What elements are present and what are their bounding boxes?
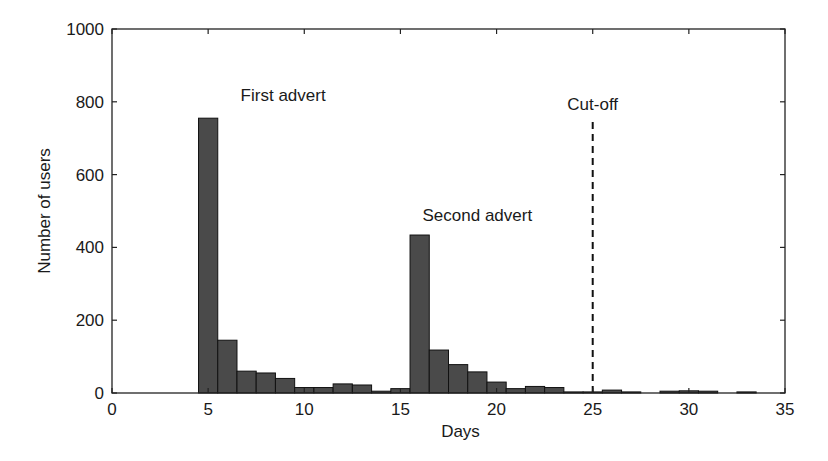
x-axis-label: Days (441, 422, 480, 441)
x-tick-label: 35 (776, 400, 795, 419)
x-tick-label: 0 (107, 400, 116, 419)
x-tick-label: 5 (203, 400, 212, 419)
histogram-bar (468, 372, 487, 393)
chart-annotation: Cut-off (567, 95, 618, 114)
x-tick-label: 10 (295, 400, 314, 419)
chart-annotation: Second advert (423, 206, 533, 225)
x-tick-label: 20 (487, 400, 506, 419)
chart-annotation: First advert (241, 86, 326, 105)
histogram-bar (506, 389, 525, 393)
histogram-bar (333, 384, 352, 393)
histogram-bar (449, 365, 468, 393)
histogram-chart: 05101520253035 02004006008001000 First a… (0, 0, 828, 461)
histogram-bar (545, 388, 564, 393)
annotations-group: First advertSecond advertCut-off (241, 86, 619, 224)
histogram-bar (314, 388, 333, 393)
histogram-bar (352, 385, 371, 393)
y-tick-label: 200 (76, 311, 104, 330)
y-tick-label: 800 (76, 93, 104, 112)
x-tick-label: 25 (583, 400, 602, 419)
bars-group (199, 118, 757, 393)
x-tick-label: 30 (679, 400, 698, 419)
y-axis-label: Number of users (35, 148, 54, 274)
histogram-bar (429, 350, 448, 393)
x-tick-label: 15 (391, 400, 410, 419)
histogram-bar (237, 371, 256, 393)
y-tick-label: 600 (76, 166, 104, 185)
histogram-bar (256, 373, 275, 393)
histogram-bar (218, 340, 237, 393)
histogram-bar (525, 386, 544, 393)
histogram-bar (199, 118, 218, 393)
y-tick-label: 1000 (66, 20, 104, 39)
histogram-bar (275, 378, 294, 393)
y-tick-label: 400 (76, 238, 104, 257)
y-tick-label: 0 (95, 384, 104, 403)
histogram-bar (410, 235, 429, 393)
